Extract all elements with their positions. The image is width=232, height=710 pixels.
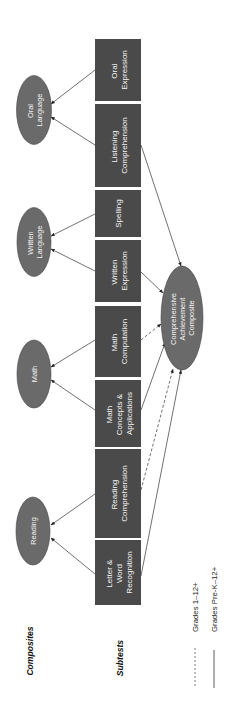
subtest-letter-word-recognition: Letter & Word Recognition (95, 540, 141, 605)
subtest-label: Math (110, 334, 119, 352)
composite-label: Language (35, 226, 44, 259)
subtest-oral-expression: Oral Expression (95, 39, 141, 101)
composite-label: Composite (187, 300, 196, 335)
arrow-listening-to-cac (141, 145, 181, 266)
subtest-reading-comprehension: Reading Comprehension (95, 449, 141, 538)
composite-label: Math (30, 366, 39, 382)
composite-label: Oral (26, 104, 35, 118)
subtest-label: Comprehension (120, 117, 129, 173)
composite-math: Math (17, 340, 51, 408)
subtest-spelling: Spelling (95, 190, 141, 237)
arrow-oral-expression-to-oral-language (51, 70, 95, 104)
composite-label: Comprehensive (169, 293, 178, 345)
row-label-composites: Composites (25, 626, 35, 675)
subtest-boxes: Oral Expression Listening Comprehension … (95, 39, 141, 605)
subtest-label: Written (110, 260, 119, 285)
subtest-label: Letter & (105, 559, 114, 588)
comprehensive-achievement-composite: Comprehensive Achievement Composite (161, 266, 203, 370)
svg-text:Written Language: Written Language (26, 226, 44, 259)
arrow-letter-word-to-reading (51, 538, 95, 574)
row-label-subtests: Subtests (115, 640, 125, 677)
arrow-reading-comprehension-to-cac-dashed (141, 369, 173, 490)
legend: Grades 1–12+ Grades Pre-K–12+ (191, 566, 219, 688)
subtest-label: Expression (120, 251, 129, 291)
subtest-label: Listening (110, 131, 119, 163)
subtest-label: Word (115, 564, 124, 583)
svg-text:Math: Math (30, 366, 39, 382)
arrow-math-computation-to-math (51, 340, 95, 367)
composite-oral-language: Oral Language (17, 76, 52, 145)
composite-reading: Reading (16, 497, 50, 565)
composite-label: Achievement (178, 298, 187, 341)
subtest-label: Expression (120, 50, 129, 90)
composite-label: Written (26, 231, 35, 254)
arrow-letter-word-to-cac (141, 370, 181, 576)
legend-solid-label: Grades Pre-K–12+ (210, 566, 219, 632)
subtest-label: Applications (125, 392, 134, 435)
arrow-math-computation-to-cac-dashed (141, 324, 161, 340)
subtest-label: Oral (110, 63, 119, 78)
subtest-label: Math (105, 406, 114, 424)
subtest-label: Reading (110, 480, 119, 510)
subtest-label: Concepts & (115, 393, 124, 435)
svg-text:Spelling: Spelling (114, 199, 123, 227)
subtest-math-concepts-applications: Math Concepts & Applications (95, 380, 141, 447)
arrow-listening-to-oral-language (51, 117, 95, 145)
subtest-label: Recognition (125, 551, 134, 593)
subtest-label: Comprehension (120, 465, 129, 521)
subtest-listening-comprehension: Listening Comprehension (95, 104, 141, 187)
composite-label: Language (35, 94, 44, 127)
arrow-math-concepts-to-cac (141, 343, 165, 410)
arrow-spelling-to-written-language (51, 214, 95, 236)
subtest-to-composite-arrows (51, 70, 95, 574)
composite-label: Reading (29, 517, 38, 545)
kabc-structure-diagram: Oral Expression Listening Comprehension … (0, 0, 232, 710)
arrow-reading-comprehension-to-reading (51, 494, 95, 525)
composite-written-language: Written Language (17, 208, 51, 277)
legend-dashed-label: Grades 1–12+ (191, 582, 200, 632)
arrow-written-expression-to-cac (141, 272, 163, 293)
subtest-label: Computation (120, 319, 129, 364)
subtest-label: Spelling (114, 199, 123, 227)
arrow-math-concepts-to-math (51, 380, 95, 410)
subtest-math-computation: Math Computation (95, 306, 141, 377)
svg-text:Reading: Reading (29, 517, 38, 545)
subtest-written-expression: Written Expression (95, 240, 141, 302)
arrow-written-expression-to-written-language (51, 249, 95, 271)
